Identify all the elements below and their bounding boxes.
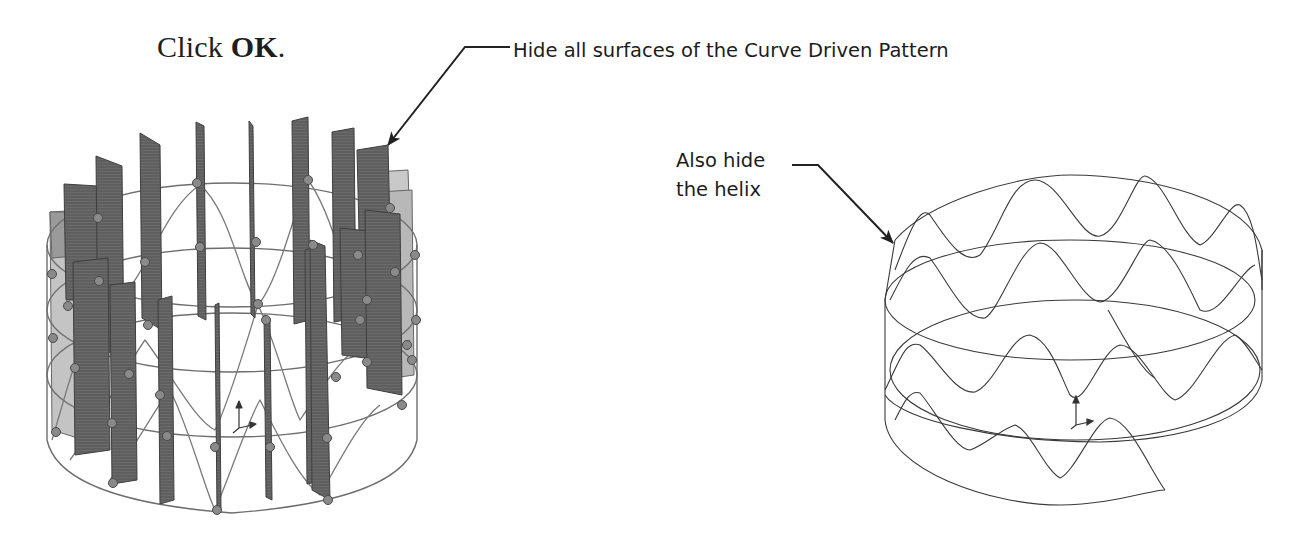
left-model-surfaces-visible xyxy=(47,117,421,515)
coordinate-triad-icon-right xyxy=(1071,396,1093,429)
pattern-surfaces xyxy=(64,117,402,512)
ring-top xyxy=(895,175,1262,290)
leader-arrow-surfaces xyxy=(388,47,510,145)
ring-inner xyxy=(890,300,1260,440)
sine-curve-upper xyxy=(895,176,1262,280)
sine-curve-lower xyxy=(885,335,1262,400)
coordinate-triad-icon xyxy=(233,401,256,433)
leader-arrow-helix xyxy=(792,165,893,243)
sine-curve-middle xyxy=(890,240,1255,318)
figures-canvas xyxy=(0,0,1305,552)
right-model-helix-wireframe xyxy=(885,175,1262,505)
